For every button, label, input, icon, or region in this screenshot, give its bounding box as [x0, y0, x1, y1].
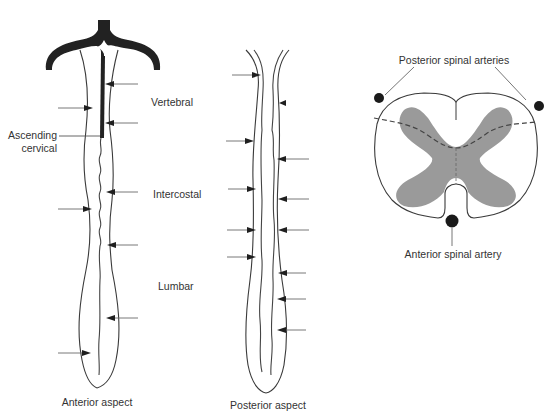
anterior-arrow	[106, 189, 138, 195]
label-lumbar: Lumbar	[158, 280, 194, 292]
posterior-arrow	[228, 186, 256, 192]
anterior-spinal-artery-upper	[100, 56, 105, 138]
label-ascending-line2: cervical	[21, 142, 57, 154]
posterior-arrow	[278, 227, 309, 233]
posterior-arrow	[227, 227, 256, 233]
label-intercostal: Intercostal	[153, 188, 201, 200]
posterior-arrow	[279, 100, 286, 106]
anterior-arrow	[105, 81, 138, 87]
posterior-arrow	[277, 327, 306, 333]
grey-matter	[396, 107, 516, 207]
posterior-arrow	[226, 138, 254, 144]
posterior-arrow	[278, 196, 309, 202]
spinal-cord-blood-supply-diagram: Ascending cervical Vertebral Intercostal…	[0, 0, 558, 417]
posterior-spinal-arteries-label: Posterior spinal arteries	[399, 54, 509, 66]
anterior-arrow	[58, 206, 92, 212]
posterior-spinal-artery-left	[254, 50, 263, 372]
cross-section-panel: Posterior spinal arteries Anterior spina…	[374, 54, 544, 260]
label-ascending-line1: Ascending	[8, 129, 57, 141]
posterior-spinal-artery-right-dot	[534, 101, 544, 111]
anterior-spinal-artery-dot	[446, 215, 459, 228]
anterior-aspect-panel: Ascending cervical Vertebral Intercostal…	[8, 20, 202, 408]
label-vertebral: Vertebral	[151, 96, 193, 108]
posterior-artery-leader-right	[495, 67, 526, 100]
anterior-spinal-artery-wavy	[99, 138, 101, 375]
posterior-arrow	[278, 270, 306, 276]
posterior-arrow	[232, 72, 261, 78]
posterior-aspect-caption: Posterior aspect	[230, 399, 306, 411]
posterior-aspect-panel: Posterior aspect	[226, 50, 309, 411]
posterior-arrow	[277, 156, 309, 162]
anterior-spinal-artery-label: Anterior spinal artery	[405, 248, 503, 260]
anterior-arrow	[107, 242, 138, 248]
anterior-arrow	[58, 350, 91, 356]
posterior-spinal-artery-left-dot	[374, 93, 384, 103]
anterior-cord-outline-left	[79, 50, 97, 388]
anterior-aspect-caption: Anterior aspect	[62, 396, 133, 408]
posterior-artery-leader-left	[385, 67, 414, 95]
posterior-cord-outline-left	[246, 50, 266, 393]
anterior-arrow	[106, 315, 138, 321]
posterior-arrow	[277, 296, 306, 302]
